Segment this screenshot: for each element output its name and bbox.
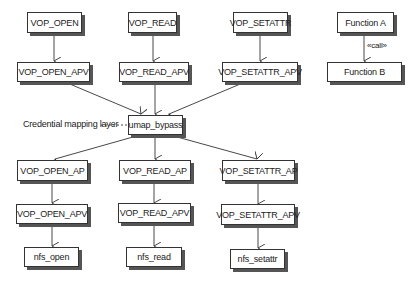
node-vop-setattr: VOP_SETATTR [233,12,288,33]
node-vop-open: VOP_OPEN [27,12,82,33]
node-vop-open-apv-bottom: VOP_OPEN_APV [16,204,88,224]
connector-lines [0,0,414,285]
node-vop-read-apv-top: VOP_READ_APV [119,62,189,82]
node-vop-setattr-ap: VOP_SETATTR_AP [222,160,295,181]
node-nfs-read: nfs_read [126,247,182,267]
node-nfs-setattr: nfs_setattr [230,249,285,269]
node-vop-open-ap: VOP_OPEN_AP [17,160,88,181]
node-vop-setattr-apv-bottom: VOP_SETATTR_APV [221,204,295,225]
node-vop-read-apv-bottom: VOP_READ_APV [118,203,191,223]
legend-call-label: «call» [367,41,387,50]
node-vop-setattr-apv-top: VOP_SETATTR_APV [222,62,298,82]
node-umap-bypass: umap_bypass [128,115,183,135]
credential-mapping-layer-label: Credential mapping layer [23,119,118,129]
node-nfs-open: nfs_open [24,247,79,267]
node-vop-open-apv-top: VOP_OPEN_APV [17,62,90,82]
legend-function-b: Function B [327,62,402,82]
node-vop-read-ap: VOP_READ_AP [119,160,191,181]
legend-function-a: Function A [337,12,394,33]
node-vop-read: VOP_READ [128,12,177,33]
